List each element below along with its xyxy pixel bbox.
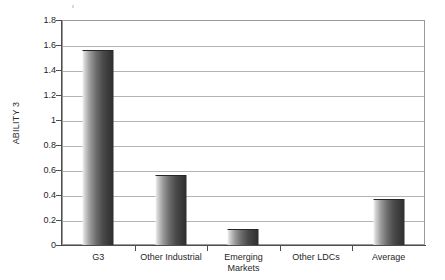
x-axis-tick-label-line: Markets: [207, 263, 280, 274]
y-axis-title: ABILITY 3: [6, 0, 26, 245]
x-axis-tick-label: G3: [62, 252, 135, 263]
x-axis-line: [62, 245, 426, 246]
bar: [155, 175, 186, 245]
x-axis-tick-label: Other LDCs: [280, 252, 353, 263]
y-axis-title-text: ABILITY 3: [11, 101, 21, 144]
x-axis-tick-mark: [352, 246, 353, 251]
y-axis-tick-mark: [56, 120, 61, 121]
y-axis-tick-label: 1.6: [26, 41, 56, 50]
x-axis-tick-mark: [280, 246, 281, 251]
x-axis-tick-label-line: Emerging: [207, 252, 280, 263]
y-axis-tick-mark: [56, 220, 61, 221]
bar-slot: [62, 20, 135, 245]
y-axis-tick-label: 1.4: [26, 66, 56, 75]
y-axis-tick-label: 0.2: [26, 216, 56, 225]
y-axis-tick-label: 0.8: [26, 141, 56, 150]
y-axis-tick-label: 1: [26, 116, 56, 125]
y-axis-tick-label: 0.6: [26, 166, 56, 175]
x-axis-tick-labels: G3Other IndustrialEmergingMarketsOther L…: [62, 252, 425, 280]
x-axis-tick-label-line: Average: [352, 252, 425, 263]
x-axis-tick-mark: [135, 246, 136, 251]
bar-slot: [280, 20, 353, 245]
chart-figure: ABILITY 3 00.20.40.60.811.21.41.61.8 G3O…: [0, 0, 445, 280]
x-axis-tick-label: EmergingMarkets: [207, 252, 280, 274]
x-axis-tick-mark: [207, 246, 208, 251]
y-axis-tick-mark: [56, 145, 61, 146]
y-axis-tick-mark: [56, 195, 61, 196]
x-axis-tick-label: Average: [352, 252, 425, 263]
x-axis-tick-label: Other Industrial: [135, 252, 208, 263]
bar-slot: [207, 20, 280, 245]
bar: [83, 50, 114, 245]
bars-layer: [62, 20, 425, 245]
x-axis-tick-label-line: Other LDCs: [280, 252, 353, 263]
y-axis-tick-mark: [56, 45, 61, 46]
y-axis-tick-label: 1.8: [26, 16, 56, 25]
y-axis-tick-mark: [56, 70, 61, 71]
y-axis-tick-mark: [56, 20, 61, 21]
y-axis-tick-mark: [56, 170, 61, 171]
y-axis-tick-label: 1.2: [26, 91, 56, 100]
x-axis-tick-label-line: G3: [62, 252, 135, 263]
bar: [228, 229, 259, 245]
y-axis-tick-labels: 00.20.40.60.811.21.41.61.8: [26, 20, 56, 245]
bar-slot: [352, 20, 425, 245]
x-axis-tick-label-line: Other Industrial: [135, 252, 208, 263]
bar-slot: [135, 20, 208, 245]
y-axis-tick-mark: [56, 245, 61, 246]
y-axis-tick-mark: [56, 95, 61, 96]
scan-artifact: [72, 5, 74, 8]
bar: [373, 199, 404, 245]
y-axis-tick-label: 0.4: [26, 191, 56, 200]
y-axis-tick-label: 0: [26, 241, 56, 250]
